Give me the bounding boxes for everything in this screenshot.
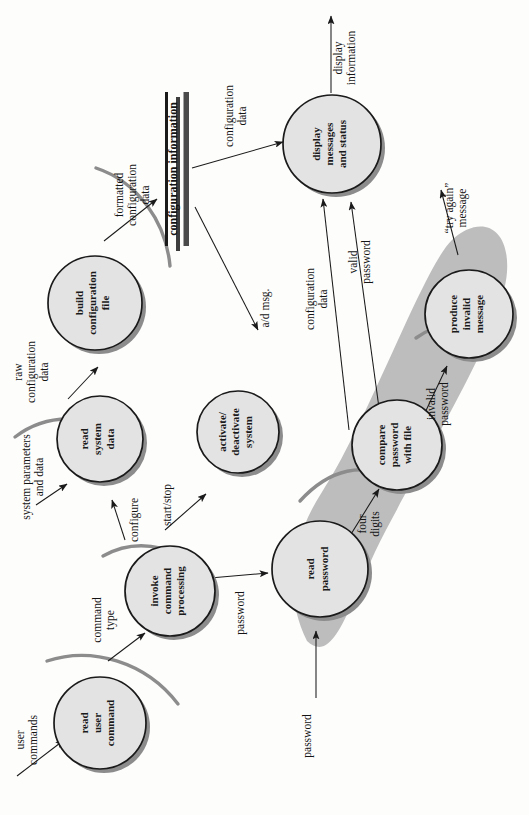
- flow-label-valid-password: valid password: [347, 240, 373, 284]
- dataflow-diagram-svg: configuration information read user comm…: [0, 0, 529, 815]
- svg-text:digits: digits: [369, 511, 382, 537]
- svg-text:display: display: [332, 41, 345, 74]
- process-build-configuration-file[interactable]: build configuration file: [48, 256, 146, 354]
- svg-text:valid: valid: [347, 250, 359, 273]
- svg-text:configuration: configuration: [126, 164, 139, 226]
- flow-label-four-digits: four digits: [356, 511, 382, 537]
- process-read-user-command[interactable]: read user command: [54, 677, 150, 773]
- svg-text:configure: configure: [128, 498, 141, 542]
- process-label-line: invoke: [148, 575, 160, 606]
- flow-label-system-parameters-and-data: system parameters and data: [20, 434, 45, 520]
- svg-text:password: password: [234, 591, 247, 635]
- process-label-line: read: [304, 558, 316, 579]
- svg-text:start/stop: start/stop: [161, 484, 174, 526]
- svg-text:four: four: [356, 514, 368, 533]
- arrow-command-type: [108, 633, 145, 661]
- process-label-line: message: [473, 295, 485, 334]
- process-label-line: processing: [174, 566, 186, 616]
- flow-label-command-type: command type: [91, 597, 117, 643]
- process-label-line: read: [78, 428, 90, 449]
- svg-text:configuration: configuration: [25, 341, 38, 403]
- svg-text:and data: and data: [33, 458, 45, 497]
- svg-text:password: password: [360, 240, 373, 284]
- flow-label-start-stop: start/stop: [161, 484, 174, 526]
- process-label-line: compare: [375, 425, 387, 466]
- flow-label-invalid-password: invalid password: [425, 382, 451, 426]
- svg-text:data: data: [38, 362, 50, 381]
- process-label-line: system: [91, 423, 103, 455]
- svg-text:user: user: [14, 730, 26, 749]
- svg-text:data: data: [139, 185, 151, 204]
- flow-label-display-information: display information: [332, 31, 357, 86]
- svg-text:command: command: [91, 597, 103, 643]
- svg-text:“try again”: “try again”: [443, 183, 456, 234]
- svg-text:commands: commands: [27, 715, 39, 765]
- svg-text:data: data: [236, 106, 248, 125]
- flow-label-try-again-message: “try again” message: [443, 183, 469, 234]
- svg-text:password: password: [301, 714, 314, 758]
- flow-label-a-d-msg: a/d msg.: [259, 288, 272, 327]
- data-store-label: configuration information: [166, 102, 180, 236]
- process-label-line: and status: [336, 119, 348, 168]
- svg-text:formatted: formatted: [113, 172, 125, 217]
- process-label-line: configuration: [86, 271, 98, 335]
- process-label-line: command: [161, 568, 173, 614]
- process-label-line: messages: [323, 122, 335, 165]
- process-label-line: file: [99, 296, 111, 311]
- svg-text:type: type: [104, 610, 117, 630]
- process-activate-deactivate-system[interactable]: activate/ deactivate system: [197, 391, 283, 477]
- process-label-line: password: [388, 423, 400, 468]
- flow-label-configuration-data-to-display: configuration data: [304, 268, 329, 330]
- flow-label-formatted-configuration-data: formatted configuration data: [113, 164, 151, 226]
- process-label-line: invalid: [460, 298, 472, 330]
- flow-label-password-invoke: password: [234, 591, 247, 635]
- process-label-line: system: [242, 416, 254, 448]
- arrow-a-d-msg: [195, 207, 258, 330]
- process-read-system-data[interactable]: read system data: [57, 396, 147, 486]
- diagram-canvas: configuration information read user comm…: [0, 0, 529, 815]
- process-label-line: display: [310, 127, 322, 161]
- svg-text:configuration: configuration: [304, 268, 317, 330]
- process-label-line: password: [318, 547, 330, 592]
- process-label-line: produce: [447, 295, 459, 333]
- flow-label-configure: configure: [128, 498, 141, 542]
- process-label-line: user: [91, 713, 103, 733]
- arrow-valid-password: [351, 202, 382, 430]
- process-label-line: deactivate: [229, 408, 241, 456]
- arrow-password-invoke: [210, 573, 268, 578]
- svg-text:data: data: [317, 289, 329, 308]
- process-label-line: command: [104, 700, 116, 746]
- process-label-line: activate/: [216, 411, 228, 452]
- svg-text:a/d msg.: a/d msg.: [259, 288, 272, 327]
- flow-label-raw-configuration-data: raw configuration data: [12, 341, 50, 403]
- svg-text:raw: raw: [12, 363, 24, 381]
- arrow-config-data-store-display: [192, 142, 283, 168]
- arrow-configure: [112, 500, 125, 540]
- flow-label-configuration-data-store-to-display: configuration data: [223, 85, 248, 147]
- svg-text:configuration: configuration: [223, 85, 236, 147]
- svg-text:invalid: invalid: [425, 388, 437, 420]
- svg-text:password: password: [438, 382, 451, 426]
- process-invoke-command-processing[interactable]: invoke command processing: [125, 546, 219, 640]
- flow-label-user-commands: user commands: [14, 715, 39, 765]
- svg-text:message: message: [456, 189, 469, 228]
- process-label-line: read: [78, 712, 90, 733]
- data-store-configuration-information: configuration information: [165, 92, 189, 251]
- svg-text:information: information: [345, 31, 357, 86]
- arrow-config-data-display: [323, 199, 349, 430]
- arrow-raw-config-data: [68, 367, 98, 399]
- flow-label-password-external: password: [301, 714, 314, 758]
- process-label-line: data: [104, 428, 116, 449]
- process-label-line: build: [73, 291, 85, 315]
- svg-text:system parameters: system parameters: [20, 434, 33, 520]
- process-label-line: with file: [401, 426, 413, 464]
- process-display-messages-and-status[interactable]: display messages and status: [283, 95, 385, 197]
